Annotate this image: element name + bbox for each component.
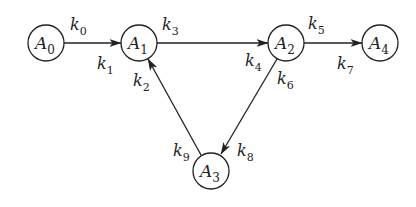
rate-label-k4: k4 bbox=[245, 51, 262, 74]
rate-label-k7: k7 bbox=[337, 54, 354, 77]
rate-label-k8: k8 bbox=[237, 141, 254, 164]
rate-label-base: k bbox=[277, 69, 287, 88]
node-label-base: A bbox=[273, 33, 287, 53]
rate-label-subscript: 4 bbox=[255, 61, 262, 74]
node-a1: A1 bbox=[121, 25, 157, 61]
rate-label-base: k bbox=[97, 54, 107, 73]
node-label-base: A bbox=[126, 33, 140, 53]
node-label-base: A bbox=[367, 33, 381, 53]
rate-label-subscript: 8 bbox=[247, 151, 254, 164]
node-a0: A0 bbox=[28, 25, 64, 61]
node-label-subscript: 3 bbox=[212, 171, 220, 185]
rate-label-subscript: 3 bbox=[172, 25, 179, 38]
rate-label-base: k bbox=[162, 15, 172, 34]
rate-label-base: k bbox=[173, 141, 183, 160]
node-a3: A3 bbox=[193, 153, 229, 189]
rate-label-k1: k1 bbox=[97, 54, 114, 77]
rate-label-subscript: 1 bbox=[107, 64, 114, 77]
nodes-group: A0A1A2A3A4 bbox=[28, 25, 398, 189]
rate-labels-group: k0k1k2k3k4k5k6k7k8k9 bbox=[70, 14, 354, 164]
reaction-network-diagram: A0A1A2A3A4 k0k1k2k3k4k5k6k7k8k9 bbox=[0, 0, 416, 207]
rate-label-k6: k6 bbox=[277, 69, 294, 92]
node-label-subscript: 4 bbox=[381, 43, 389, 57]
edge-a2-to-a3-arrow bbox=[221, 59, 277, 154]
edges-group bbox=[64, 43, 362, 155]
rate-label-k3: k3 bbox=[162, 15, 179, 38]
rate-label-subscript: 9 bbox=[183, 151, 190, 164]
node-a4: A4 bbox=[362, 25, 398, 61]
rate-label-subscript: 6 bbox=[287, 79, 294, 92]
rate-label-k2: k2 bbox=[133, 71, 150, 94]
rate-label-base: k bbox=[237, 141, 247, 160]
rate-label-k0: k0 bbox=[70, 15, 87, 38]
rate-label-k9: k9 bbox=[173, 141, 190, 164]
rate-label-base: k bbox=[308, 14, 318, 33]
rate-label-base: k bbox=[133, 71, 143, 90]
node-label-subscript: 2 bbox=[287, 43, 295, 57]
rate-label-subscript: 5 bbox=[318, 24, 325, 37]
node-a2: A2 bbox=[268, 25, 304, 61]
rate-label-subscript: 7 bbox=[347, 64, 354, 77]
node-label-base: A bbox=[198, 161, 212, 181]
rate-label-base: k bbox=[70, 15, 80, 34]
rate-label-k5: k5 bbox=[308, 14, 325, 37]
node-label-subscript: 0 bbox=[47, 43, 55, 57]
rate-label-base: k bbox=[245, 51, 255, 70]
node-label-subscript: 1 bbox=[140, 43, 148, 57]
node-label-base: A bbox=[33, 33, 47, 53]
rate-label-subscript: 0 bbox=[80, 25, 87, 38]
rate-label-base: k bbox=[337, 54, 347, 73]
rate-label-subscript: 2 bbox=[143, 81, 150, 94]
